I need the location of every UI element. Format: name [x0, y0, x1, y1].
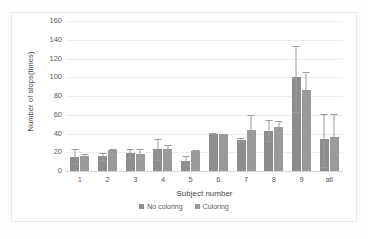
bar-slot	[163, 21, 172, 171]
y-tick-label: 120	[36, 55, 62, 63]
bar-group	[232, 21, 260, 171]
bar-slot	[209, 21, 218, 171]
y-tick-label: 40	[36, 130, 62, 138]
error-bar	[268, 120, 269, 141]
bar-group	[177, 21, 205, 171]
legend-label: Culoring	[203, 203, 229, 210]
plot-area	[66, 21, 343, 172]
error-bar-cap-top	[303, 72, 310, 73]
error-bar-cap-bottom	[210, 134, 217, 135]
bar-slot	[126, 21, 135, 171]
error-bar	[140, 149, 141, 158]
bar-slot	[302, 21, 311, 171]
y-axis-tick-labels: 160140120100806040200	[34, 21, 62, 171]
error-bar-cap-bottom	[154, 160, 161, 161]
x-axis-title: Subject number	[66, 189, 343, 198]
error-bar-cap-bottom	[127, 158, 134, 159]
error-bar-cap-bottom	[331, 165, 338, 166]
error-bar-cap-bottom	[321, 167, 328, 168]
error-bar-cap-bottom	[275, 134, 282, 135]
x-tick-label: 4	[149, 175, 177, 184]
error-bar-cap-top	[99, 153, 106, 154]
bar-group	[149, 21, 177, 171]
error-bar-cap-top	[127, 149, 134, 150]
bar-slot	[247, 21, 256, 171]
bar[interactable]	[108, 150, 117, 171]
x-tick-label: 9	[288, 175, 316, 184]
y-tick-label: 100	[36, 74, 62, 82]
error-bar	[278, 121, 279, 133]
x-tick-label: 6	[205, 175, 233, 184]
bar-group	[94, 21, 122, 171]
error-bar-cap-bottom	[220, 135, 227, 136]
error-bar-cap-bottom	[238, 142, 245, 143]
x-tick-label: 3	[121, 175, 149, 184]
y-tick-label: 160	[36, 17, 62, 25]
bar-group	[288, 21, 316, 171]
legend-item[interactable]: No coloring	[139, 203, 182, 210]
error-bar	[296, 46, 297, 112]
error-bar-cap-top	[331, 114, 338, 115]
chart-legend: No coloringCuloring	[12, 203, 356, 210]
bar-group	[205, 21, 233, 171]
bar[interactable]	[219, 134, 228, 171]
x-axis-tick-labels: 123456789all	[66, 175, 343, 184]
chart-screenshot: Number of stops(times) 16014012010080604…	[0, 0, 368, 239]
x-tick-label: all	[315, 175, 343, 184]
bar-slot	[108, 21, 117, 171]
error-bar-cap-bottom	[164, 154, 171, 155]
bar-groups	[66, 21, 343, 171]
error-bar	[74, 149, 75, 164]
bar-slot	[181, 21, 190, 171]
error-bar-cap-bottom	[293, 112, 300, 113]
error-bar-cap-top	[238, 138, 245, 139]
error-bar-cap-top	[81, 154, 88, 155]
bar-slot	[237, 21, 246, 171]
error-bar-cap-top	[164, 145, 171, 146]
error-bar-cap-bottom	[182, 165, 189, 166]
error-bar-cap-bottom	[81, 158, 88, 159]
chart-card: Number of stops(times) 16014012010080604…	[11, 12, 357, 222]
error-bar	[130, 149, 131, 158]
bar-slot	[136, 21, 145, 171]
y-tick-label: 20	[36, 149, 62, 157]
bar-group	[66, 21, 94, 171]
error-bar-cap-top	[220, 134, 227, 135]
error-bar-cap-top	[71, 149, 78, 150]
y-tick-label: 0	[36, 167, 62, 175]
error-bar-cap-top	[265, 120, 272, 121]
error-bar	[167, 145, 168, 154]
error-bar	[157, 139, 158, 160]
error-bar-cap-top	[137, 149, 144, 150]
error-bar-cap-top	[248, 115, 255, 116]
x-tick-label: 1	[66, 175, 94, 184]
x-tick-label: 2	[94, 175, 122, 184]
bar-slot	[219, 21, 228, 171]
bar-slot	[153, 21, 162, 171]
error-bar-cap-top	[293, 46, 300, 47]
bar-slot	[264, 21, 273, 171]
y-tick-label: 60	[36, 111, 62, 119]
legend-item[interactable]: Culoring	[195, 203, 229, 210]
error-bar-cap-top	[275, 121, 282, 122]
bar-slot	[70, 21, 79, 171]
error-bar-cap-bottom	[137, 159, 144, 160]
legend-swatch-icon	[139, 204, 144, 209]
bar[interactable]	[191, 151, 200, 171]
error-bar-cap-top	[154, 139, 161, 140]
error-bar-cap-bottom	[192, 152, 199, 153]
error-bar	[306, 72, 307, 118]
bar-group	[121, 21, 149, 171]
bar[interactable]	[209, 134, 218, 172]
error-bar	[324, 114, 325, 167]
bar-slot	[274, 21, 283, 171]
bar-group	[315, 21, 343, 171]
error-bar-cap-top	[182, 156, 189, 157]
error-bar	[334, 114, 335, 166]
bar-slot	[80, 21, 89, 171]
error-bar-cap-bottom	[99, 160, 106, 161]
legend-swatch-icon	[195, 204, 200, 209]
error-bar-cap-bottom	[109, 151, 116, 152]
bar[interactable]	[237, 140, 246, 171]
error-bar	[251, 115, 252, 145]
